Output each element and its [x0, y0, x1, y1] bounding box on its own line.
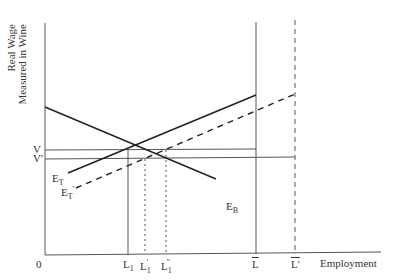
curve-e-t-prime — [76, 94, 295, 188]
origin-label: 0 — [36, 259, 42, 270]
label-l-bar: L — [252, 259, 259, 270]
label-l1: L1 — [123, 259, 134, 273]
label-e-t: ET — [52, 173, 64, 187]
label-e-t-prime: ET' — [61, 186, 74, 201]
label-e-b: EB — [226, 201, 238, 215]
x-axis-title: Employment — [320, 258, 377, 269]
x-axis — [45, 252, 381, 255]
wage-line-v — [45, 149, 256, 150]
y-axis-title-line2: Measured in Wine — [17, 24, 28, 144]
curve-e-b — [45, 107, 216, 179]
label-l1-double-prime: L1'' — [161, 259, 170, 275]
diagram-canvas — [0, 0, 400, 280]
label-l-bar-prime: L' — [291, 259, 300, 270]
label-l1-prime: L1' — [140, 259, 148, 275]
curve-e-t — [68, 95, 256, 173]
wage-line-v-prime — [45, 157, 295, 159]
y-axis-title: Real Wage Measured in Wine — [6, 24, 40, 144]
label-v-prime: V' — [33, 153, 43, 164]
